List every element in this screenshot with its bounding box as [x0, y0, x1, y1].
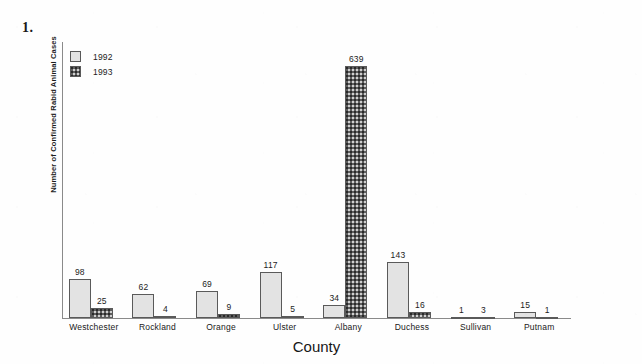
x-axis-title-label: County — [293, 338, 341, 355]
bar-value-label-ulster-1992: 117 — [257, 260, 285, 270]
bar-albany-1992 — [323, 305, 345, 318]
x-axis-title: County — [62, 338, 571, 355]
bar-orange-1993 — [218, 314, 240, 318]
plot-area: Number of Confirmed Rabid Animal Cases C… — [0, 0, 642, 364]
legend-swatch-1992-icon — [70, 51, 81, 62]
x-axis-line — [62, 318, 571, 319]
bar-sullivan-1993 — [473, 317, 495, 319]
legend-item-1992: 1992 — [70, 50, 113, 63]
bar-value-label-putnam-1993: 1 — [533, 305, 561, 315]
bar-value-label-orange-1992: 69 — [193, 279, 221, 289]
bar-value-label-westchester-1993: 25 — [88, 296, 116, 306]
bar-value-label-albany-1992: 34 — [320, 293, 348, 303]
legend-swatch-1993-icon — [70, 66, 81, 77]
bar-value-label-orange-1993: 9 — [215, 302, 243, 312]
y-axis-line — [62, 42, 63, 319]
bar-value-label-albany-1993: 639 — [342, 54, 370, 64]
bar-value-label-duchess-1992: 143 — [384, 250, 412, 260]
legend-label-1993: 1993 — [93, 67, 113, 77]
legend-item-1993: 1993 — [70, 65, 113, 78]
chart-figure: 1. Number of Confirmed Rabid Animal Case… — [0, 0, 642, 364]
bar-albany-1993 — [345, 66, 367, 318]
bar-value-label-ulster-1993: 5 — [279, 304, 307, 314]
legend-label-1992: 1992 — [93, 52, 113, 62]
bar-value-label-sullivan-1993: 3 — [470, 305, 498, 315]
bar-rockland-1993 — [154, 316, 176, 318]
bar-value-label-rockland-1992: 62 — [129, 282, 157, 292]
bar-value-label-westchester-1992: 98 — [66, 267, 94, 277]
bar-duchess-1993 — [409, 312, 431, 318]
x-tick-label-putnam: Putnam — [499, 322, 579, 332]
bar-value-label-duchess-1993: 16 — [406, 300, 434, 310]
y-axis-title: Number of Confirmed Rabid Animal Cases — [46, 110, 60, 300]
bar-ulster-1993 — [282, 316, 304, 318]
bar-value-label-rockland-1993: 4 — [151, 304, 179, 314]
bar-westchester-1993 — [91, 308, 113, 318]
y-axis-title-label: Number of Confirmed Rabid Animal Cases — [49, 36, 58, 193]
bar-sullivan-1992 — [451, 317, 473, 319]
legend: 1992 1993 — [70, 50, 113, 80]
bar-putnam-1993 — [536, 317, 558, 319]
